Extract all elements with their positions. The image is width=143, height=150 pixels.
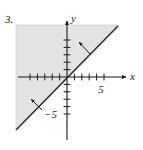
- x-axis-label: x: [129, 70, 135, 82]
- coordinate-graph: x y 5 −5: [0, 0, 143, 150]
- y-axis-label: y: [70, 12, 76, 24]
- x-tick-label-5: 5: [98, 83, 104, 95]
- y-tick-label-minus-5: −5: [44, 108, 57, 120]
- figure-container: 3.: [0, 0, 143, 150]
